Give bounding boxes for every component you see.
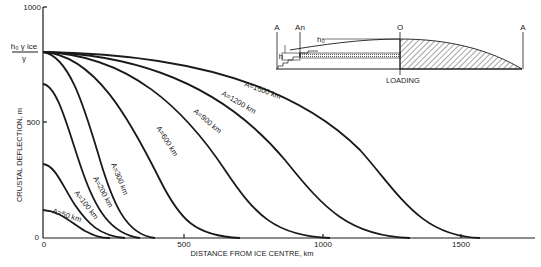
label-a1500: A=1500 km [243,79,282,101]
svg-text:h₀ γ ice: h₀ γ ice [11,42,38,51]
x-tick-1000: 1000 [314,240,332,249]
inset-diagram: A An O A h₀ h LOADING [274,23,526,85]
inset-label-o: O [397,23,403,32]
x-tick-500: 500 [177,240,191,249]
inset-label-an: An [295,23,305,32]
inset-label-loading: LOADING [386,76,420,85]
x-axis-label: DISTANCE FROM ICE CENTRE, km [190,249,313,258]
x-tick-1500: 1500 [452,240,470,249]
label-a300: A=300 km [109,161,130,196]
label-a600: A=600 km [154,124,180,158]
y-tick-1000: 1000 [23,3,41,12]
label-a1200: A=1200 km [220,89,258,116]
h0-ratio-label: h₀ γ ice γ [11,42,38,63]
deflection-chart: 1000 500 0 h₀ γ ice γ CRUSTAL DEFLECTION… [0,0,541,267]
y-tick-0: 0 [35,233,40,242]
inset-label-a-right: A [520,23,526,32]
inset-label-a-left: A [274,23,280,32]
axes [43,7,535,238]
inset-label-h0: h₀ [317,35,325,44]
y-axis-label: CRUSTAL DEFLECTION, m [15,108,24,202]
svg-text:γ: γ [22,54,26,63]
x-tick-0: 0 [42,240,47,249]
y-tick-500: 500 [27,118,41,127]
inset-label-h: h [279,52,283,61]
